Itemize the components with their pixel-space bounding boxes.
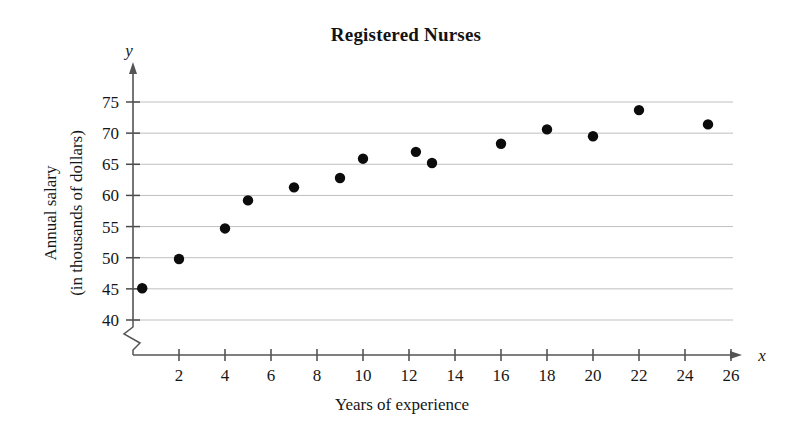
x-axis-title: Years of experience [335, 395, 469, 414]
x-tick-label: 26 [723, 366, 740, 385]
x-tick-label: 6 [267, 366, 276, 385]
y-tick-label: 50 [102, 249, 119, 268]
y-tick-label: 75 [102, 93, 119, 112]
x-tick-label: 22 [631, 366, 648, 385]
gridline-group [133, 102, 733, 320]
y-tick-label: 40 [102, 311, 119, 330]
y-axis-title-line1: Annual salary [41, 165, 60, 260]
data-point [411, 147, 421, 157]
y-tick-label: 60 [102, 186, 119, 205]
y-axis-variable-label: y [123, 41, 133, 60]
data-point [137, 283, 147, 293]
x-tick-label-group: 2468101214161820222426 [175, 366, 740, 385]
data-point [634, 105, 644, 115]
x-tick-label: 12 [401, 366, 418, 385]
x-tick-label: 4 [221, 366, 230, 385]
x-tick-label: 14 [447, 366, 465, 385]
x-tick-label: 10 [355, 366, 372, 385]
data-point [358, 153, 368, 163]
x-tick-label: 16 [493, 366, 510, 385]
x-axis-arrow [730, 351, 742, 359]
x-tick-label: 8 [313, 366, 322, 385]
chart-page: Registered Nurses y x Years of experienc… [0, 0, 812, 440]
x-tick-label: 24 [677, 366, 695, 385]
x-tick-label: 18 [539, 366, 556, 385]
x-axis-variable-label: x [757, 346, 766, 365]
y-axis-title-line2: (in thousands of dollars) [67, 130, 86, 296]
y-tick-label: 70 [102, 124, 119, 143]
y-tick-label: 55 [102, 218, 119, 237]
y-tick-label: 65 [102, 155, 119, 174]
data-point [542, 124, 552, 134]
scatter-plot: y x Years of experience Annual salary (i… [0, 0, 812, 440]
axis-break-icon [124, 320, 140, 355]
y-tick-label: 45 [102, 280, 119, 299]
data-point [703, 119, 713, 129]
data-point [335, 173, 345, 183]
data-point [427, 158, 437, 168]
data-point [243, 195, 253, 205]
data-point [496, 139, 506, 149]
data-point [220, 223, 230, 233]
data-point [289, 182, 299, 192]
y-tick-label-group: 4045505560657075 [102, 93, 119, 330]
data-point [174, 254, 184, 264]
y-axis-arrow [129, 62, 137, 74]
x-tick-label: 20 [585, 366, 602, 385]
x-tick-label: 2 [175, 366, 184, 385]
data-point [588, 131, 598, 141]
